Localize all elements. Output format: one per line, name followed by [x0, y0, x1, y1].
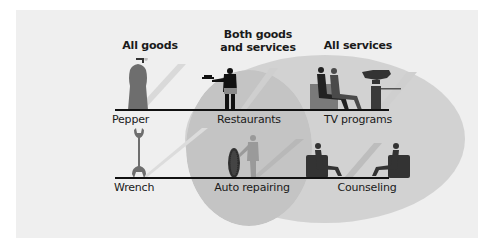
counseling-chairs-icon [304, 143, 414, 178]
diagram-panel: All goods Both goods and services All se… [16, 10, 478, 238]
label-pepper: Pepper [112, 113, 162, 126]
label-counseling: Counseling [327, 181, 407, 194]
heading-all-goods: All goods [110, 39, 190, 52]
label-auto-repairing: Auto repairing [202, 181, 302, 194]
label-wrench: Wrench [114, 181, 174, 194]
waiter-icon [200, 68, 280, 110]
heading-both-line1: Both goods [208, 28, 308, 41]
heading-all-services: All services [308, 39, 408, 52]
row1-baseline [115, 109, 389, 111]
label-restaurants: Restaurants [204, 113, 294, 126]
tv-viewers-camera-icon [307, 66, 417, 110]
label-tv-programs: TV programs [313, 113, 403, 126]
heading-both: Both goods and services [208, 28, 308, 54]
pepper-grinder-icon [116, 58, 206, 110]
mechanic-tire-icon [224, 135, 304, 178]
heading-both-line2: and services [208, 41, 308, 54]
row2-baseline [115, 177, 389, 179]
wrench-icon [120, 128, 210, 178]
